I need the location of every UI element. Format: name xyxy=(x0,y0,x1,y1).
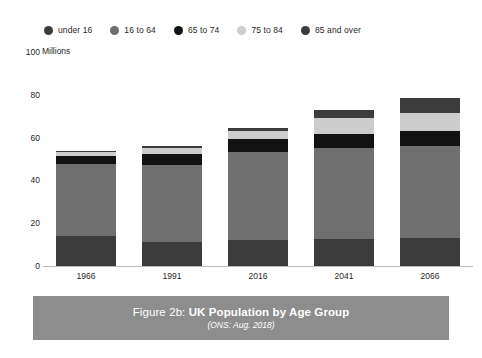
x-axis-tick-label: 1991 xyxy=(138,268,206,284)
stacked-bar[interactable] xyxy=(228,128,288,266)
bar-segment-75-to-84[interactable] xyxy=(400,113,460,130)
y-axis-tick-label: 40 xyxy=(10,175,40,185)
legend-item-75-to-84[interactable]: 75 to 84 xyxy=(237,25,283,35)
bar-segment-85-and-over[interactable] xyxy=(314,110,374,118)
stacked-bar[interactable] xyxy=(142,146,202,266)
legend-swatch-icon xyxy=(301,26,310,35)
legend-item-label: 65 to 74 xyxy=(188,25,220,35)
y-axis-tick-label: 60 xyxy=(10,133,40,143)
bar-segment-85-and-over[interactable] xyxy=(400,98,460,114)
legend-swatch-icon xyxy=(237,26,246,35)
figure-title-text: UK Population by Age Group xyxy=(189,306,350,318)
figure-caption-bar: Figure 2b: UK Population by Age Group (O… xyxy=(33,296,449,340)
legend-swatch-icon xyxy=(44,26,53,35)
bar-group-2066 xyxy=(396,44,464,266)
bar-segment-16-to-64[interactable] xyxy=(314,148,374,238)
chart-legend: under 1616 to 6465 to 7475 to 8485 and o… xyxy=(44,22,464,38)
figure-caption-title: Figure 2b: UK Population by Age Group xyxy=(133,306,350,318)
bar-segment-75-to-84[interactable] xyxy=(314,118,374,134)
legend-swatch-icon xyxy=(110,26,119,35)
x-axis-tick-label: 1966 xyxy=(52,268,120,284)
legend-item-label: under 16 xyxy=(58,25,92,35)
bar-segment-under-16[interactable] xyxy=(142,242,202,266)
bar-segment-under-16[interactable] xyxy=(56,236,116,266)
y-axis-tick-label: 0 xyxy=(10,261,40,271)
bar-segment-65-to-74[interactable] xyxy=(142,154,202,164)
chart-plot-area: Millions 020406080100 196619912016204120… xyxy=(0,44,482,284)
x-axis-baseline xyxy=(43,266,473,267)
bar-segment-65-to-74[interactable] xyxy=(56,156,116,164)
x-axis-tick-label: 2041 xyxy=(310,268,378,284)
bar-group-1991 xyxy=(138,44,206,266)
bar-segment-16-to-64[interactable] xyxy=(228,152,288,240)
bar-segment-75-to-84[interactable] xyxy=(228,131,288,139)
legend-item-label: 85 and over xyxy=(315,25,361,35)
bar-segment-16-to-64[interactable] xyxy=(142,165,202,242)
bar-segment-16-to-64[interactable] xyxy=(56,164,116,236)
bar-group-2016 xyxy=(224,44,292,266)
figure-number: Figure 2b: xyxy=(133,306,189,318)
y-axis-tick-label: 20 xyxy=(10,218,40,228)
bar-series-container xyxy=(43,44,473,266)
y-axis: 020406080100 xyxy=(10,44,40,284)
legend-item-65-to-74[interactable]: 65 to 74 xyxy=(174,25,220,35)
bar-segment-65-to-74[interactable] xyxy=(228,139,288,151)
x-axis: 19661991201620412066 xyxy=(43,268,473,284)
bar-segment-65-to-74[interactable] xyxy=(400,131,460,147)
legend-item-85-and-over[interactable]: 85 and over xyxy=(301,25,361,35)
legend-item-under-16[interactable]: under 16 xyxy=(44,25,92,35)
stacked-bar[interactable] xyxy=(400,98,460,266)
bar-segment-16-to-64[interactable] xyxy=(400,146,460,238)
stacked-bar[interactable] xyxy=(314,110,374,266)
legend-swatch-icon xyxy=(174,26,183,35)
bar-group-2041 xyxy=(310,44,378,266)
y-axis-tick-label: 80 xyxy=(10,90,40,100)
x-axis-tick-label: 2066 xyxy=(396,268,464,284)
legend-item-label: 16 to 64 xyxy=(124,25,156,35)
stacked-bar[interactable] xyxy=(56,151,116,266)
legend-item-label: 75 to 84 xyxy=(251,25,283,35)
figure-source-note: (ONS: Aug. 2018) xyxy=(207,320,274,330)
bar-group-1966 xyxy=(52,44,120,266)
y-axis-tick-label: 100 xyxy=(10,47,40,57)
legend-item-16-to-64[interactable]: 16 to 64 xyxy=(110,25,156,35)
bar-segment-under-16[interactable] xyxy=(314,239,374,266)
x-axis-tick-label: 2016 xyxy=(224,268,292,284)
bar-segment-65-to-74[interactable] xyxy=(314,134,374,149)
bar-segment-under-16[interactable] xyxy=(400,238,460,266)
bar-segment-under-16[interactable] xyxy=(228,240,288,266)
